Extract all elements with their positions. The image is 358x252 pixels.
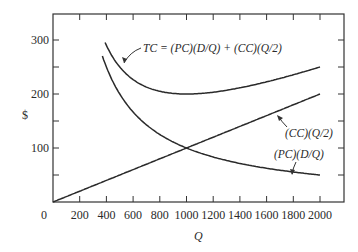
x-tick-label: 800 bbox=[151, 208, 169, 222]
cost-chart: 0200400600800100012001400160018002000100… bbox=[0, 0, 358, 252]
x-tick-label: 1000 bbox=[175, 208, 199, 222]
x-tick-label: 400 bbox=[97, 208, 115, 222]
x-tick-label: 600 bbox=[124, 208, 142, 222]
x-tick-label: 200 bbox=[71, 208, 89, 222]
pc-annotation: (PC)(D/Q) bbox=[274, 148, 324, 161]
x-tick-label: 1800 bbox=[281, 208, 305, 222]
tc-arrowhead-icon bbox=[122, 57, 127, 63]
tc-annotation: TC = (PC)(D/Q) + (CC)(Q/2) bbox=[143, 42, 282, 55]
x-tick-label: 1200 bbox=[201, 208, 225, 222]
curves bbox=[53, 43, 320, 203]
x-axis-label: Q bbox=[194, 229, 203, 243]
y-tick-label: 300 bbox=[31, 33, 49, 47]
cc-arrowhead-icon bbox=[277, 115, 283, 121]
y-tick-label: 200 bbox=[31, 87, 49, 101]
x-tick-label: 1400 bbox=[228, 208, 252, 222]
cc-annotation: (CC)(Q/2) bbox=[285, 127, 333, 140]
x-tick-label: 1600 bbox=[255, 208, 279, 222]
y-axis-label: $ bbox=[22, 108, 28, 122]
x-tick-label: 2000 bbox=[308, 208, 332, 222]
y-tick-label: 100 bbox=[31, 141, 49, 155]
tc-pointer-arrow bbox=[124, 48, 141, 63]
x-tick-label: 0 bbox=[41, 208, 47, 222]
